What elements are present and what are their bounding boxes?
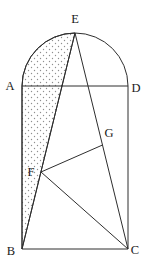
label-F: F xyxy=(28,165,35,179)
label-G: G xyxy=(104,126,113,140)
geometry-figure: EADGFBC xyxy=(0,0,151,275)
label-A: A xyxy=(5,79,14,93)
diagram-canvas: EADGFBC xyxy=(0,0,151,275)
label-C: C xyxy=(131,243,139,257)
label-B: B xyxy=(7,244,15,258)
segment-E-C xyxy=(75,33,128,249)
label-D: D xyxy=(131,81,140,95)
label-E: E xyxy=(71,12,79,26)
segment-F-G xyxy=(41,145,103,172)
segment-F-C xyxy=(41,172,128,249)
